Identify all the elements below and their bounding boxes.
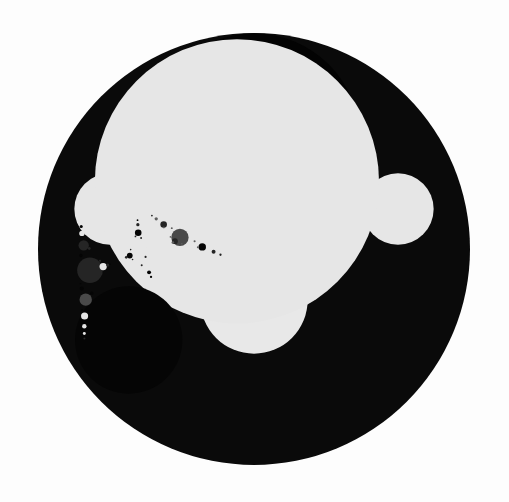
gasket-circle [90, 292, 93, 295]
gasket-circle [141, 264, 143, 266]
gasket-circle [83, 338, 85, 340]
gasket-circle [87, 310, 89, 312]
gasket-circle [79, 231, 84, 236]
gasket-circle [79, 254, 83, 258]
gasket-circle [130, 249, 132, 251]
gasket-circle [150, 276, 152, 278]
gasket-circle [140, 237, 142, 239]
gasket-circle [80, 225, 83, 228]
gasket-circle [79, 240, 89, 250]
fractal-image [0, 0, 509, 502]
gasket-circle [171, 227, 173, 229]
gasket-circle [181, 243, 183, 245]
gasket-circle [106, 264, 109, 267]
gasket-circle [199, 243, 206, 250]
gasket-circle [170, 236, 172, 238]
gasket-circle [80, 287, 84, 291]
gasket-circle [100, 273, 102, 275]
gasket-circle [77, 258, 103, 284]
gasket-circle [142, 261, 149, 268]
gasket-circle [127, 253, 133, 259]
gasket-circle [99, 260, 101, 262]
gasket-circle [80, 221, 82, 223]
gasket-circle [155, 217, 158, 220]
gasket-circle [82, 324, 86, 328]
gasket-circle [100, 263, 107, 270]
gasket-circle [132, 259, 134, 261]
gasket-circle [83, 332, 86, 335]
gasket-circle [147, 270, 151, 274]
gasket-circle [136, 223, 139, 226]
gasket-circle [212, 250, 216, 254]
apollonian-gasket [0, 0, 509, 502]
gasket-circle [197, 246, 199, 248]
gasket-circle [137, 219, 139, 221]
gasket-circle [145, 256, 147, 258]
gasket-circle [80, 283, 82, 285]
gasket-circle [125, 256, 128, 259]
gasket-circle [135, 236, 137, 238]
gasket-circle [81, 309, 83, 311]
gasket-circle [81, 312, 88, 319]
gasket-circle [172, 241, 175, 244]
gasket-circle [135, 229, 142, 236]
gasket-circle [219, 254, 221, 256]
gasket-circle [109, 264, 111, 266]
gasket-circle [88, 247, 91, 250]
gasket-circle [163, 227, 165, 229]
gasket-circle [80, 293, 92, 305]
large-circle [95, 39, 379, 323]
gasket-circle [194, 240, 196, 242]
gasket-circle [151, 215, 153, 217]
